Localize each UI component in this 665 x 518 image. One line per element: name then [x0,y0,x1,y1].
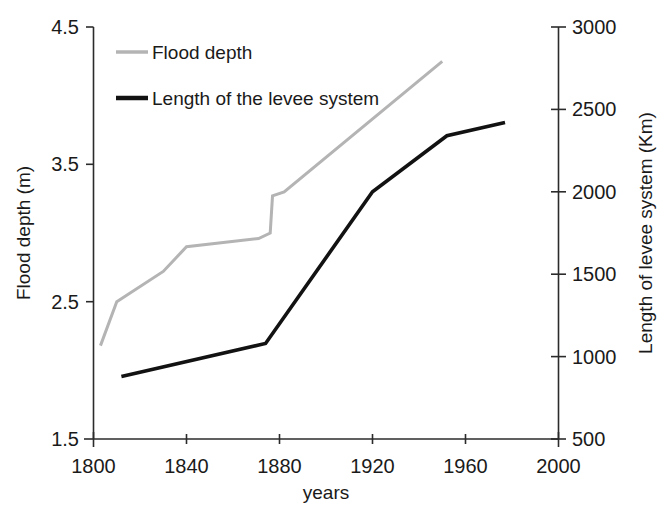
left-tick-label-1: 3.5 [51,153,79,175]
right-axis-tick-labels: 3000 2500 2000 1500 1000 500 [572,16,617,450]
chart-container: 4.5 3.5 2.5 1.5 Flood depth (m) 3000 250… [0,0,665,518]
right-tick-label-4: 1000 [572,346,617,368]
bottom-axis-title: years [303,482,349,503]
left-tick-label-0: 4.5 [51,16,79,38]
left-axis-title: Flood depth (m) [13,166,34,300]
bottom-tick-label-2: 1880 [257,455,302,477]
right-tick-label-5: 500 [572,428,605,450]
bottom-tick-label-5: 2000 [536,455,581,477]
bottom-axis-tick-labels: 1800 1840 1880 1920 1960 2000 [71,455,581,477]
right-tick-label-0: 3000 [572,16,617,38]
left-axis-ticks [84,27,94,439]
left-tick-label-2: 2.5 [51,291,79,313]
legend-entry-flood-depth[interactable]: Flood depth [116,42,252,63]
right-tick-label-3: 1500 [572,263,617,285]
bottom-tick-label-4: 1960 [443,455,488,477]
left-tick-label-3: 1.5 [51,428,79,450]
right-axis-title: Length of levee system (Km) [635,112,656,354]
series-line-levee-length [121,123,505,377]
right-tick-label-1: 2500 [572,98,617,120]
right-tick-label-2: 2000 [572,181,617,203]
line-chart: 4.5 3.5 2.5 1.5 Flood depth (m) 3000 250… [0,0,665,518]
bottom-tick-label-3: 1920 [350,455,395,477]
bottom-tick-label-1: 1840 [164,455,209,477]
legend-label-levee-length: Length of the levee system [152,88,379,109]
legend-entry-levee-length[interactable]: Length of the levee system [116,88,379,109]
legend-label-flood-depth: Flood depth [152,42,252,63]
legend: Flood depth Length of the levee system [116,42,379,109]
bottom-tick-label-0: 1800 [71,455,116,477]
left-axis-tick-labels: 4.5 3.5 2.5 1.5 [51,16,79,450]
